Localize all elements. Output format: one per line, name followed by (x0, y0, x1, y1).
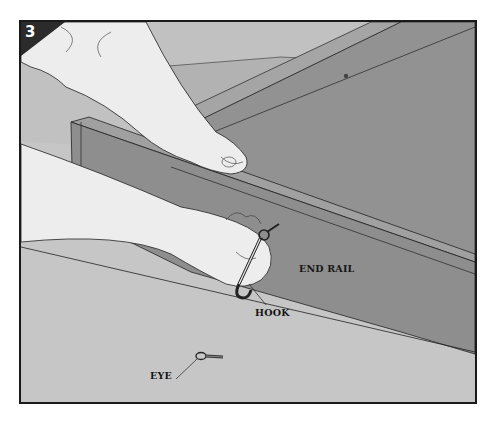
end-rail-label: END RAIL (299, 263, 354, 274)
assembly-illustration (21, 22, 475, 402)
eye-label: EYE (150, 370, 172, 381)
illustration-frame: 3 (19, 20, 477, 404)
step-number-badge: 3 (25, 23, 35, 41)
hook-label: HOOK (255, 307, 290, 318)
